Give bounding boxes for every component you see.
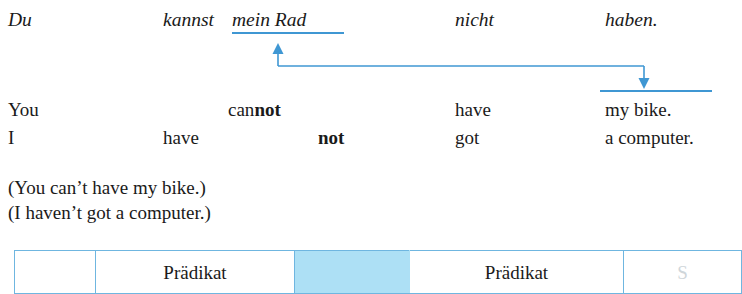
german-word-kannst: kannst	[163, 10, 214, 30]
german-word-nicht: nicht	[455, 10, 494, 30]
table-cell-col-5[interactable]: S	[624, 251, 742, 294]
english1-word-my-bike: my bike.	[605, 100, 672, 119]
table-cell-col-2[interactable]: Prädikat	[96, 251, 295, 294]
english2-word-got: got	[455, 128, 479, 147]
english1-word-cannot-stem: can	[228, 99, 254, 120]
english2-word-a-computer: a computer.	[605, 128, 694, 147]
table-cell-col-2-text: Prädikat	[96, 263, 294, 282]
paraphrase-line-1: (You can’t have my bike.)	[8, 178, 206, 197]
german-word-mein-rad: mein Rad	[232, 10, 306, 30]
english1-word-have: have	[455, 100, 491, 119]
underline-my-bike	[600, 90, 712, 92]
english1-word-cannot: cannot	[228, 100, 281, 119]
english2-word-i: I	[8, 128, 14, 147]
english1-word-cannot-negation: not	[254, 99, 280, 120]
table-cell-col-3-highlighted[interactable]	[295, 251, 410, 294]
table-cell-col-1[interactable]	[15, 251, 96, 294]
table-cell-col-4[interactable]: Prädikat	[410, 251, 624, 294]
paraphrase-line-2: (I haven’t got a computer.)	[8, 203, 211, 222]
english2-word-not: not	[318, 128, 344, 147]
english2-word-have: have	[163, 128, 199, 147]
table-cell-col-4-text: Prädikat	[410, 263, 623, 282]
english1-word-you: You	[8, 100, 39, 119]
analysis-table: Prädikat Prädikat S	[14, 250, 742, 294]
underline-mein-rad	[232, 32, 344, 34]
table-cell-col-5-text: S	[624, 263, 741, 282]
table-row: Prädikat Prädikat S	[15, 251, 742, 294]
german-word-du: Du	[8, 10, 32, 30]
german-word-haben: haben.	[605, 10, 658, 30]
